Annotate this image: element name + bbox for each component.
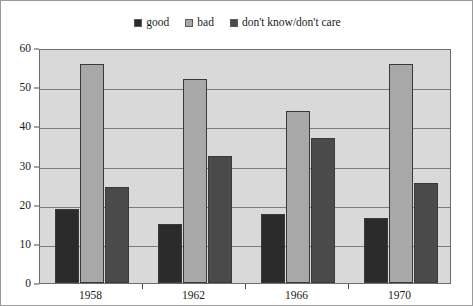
x-tick-mark xyxy=(245,284,246,289)
x-tick-label: 1958 xyxy=(79,290,102,302)
y-tick-label: 20 xyxy=(20,200,32,212)
bars-layer xyxy=(40,50,450,283)
y-tick-label: 30 xyxy=(20,161,32,173)
y-tick-label: 60 xyxy=(20,43,32,55)
bar xyxy=(286,111,310,283)
y-tick-label: 50 xyxy=(20,82,32,94)
legend-entry: good xyxy=(134,17,169,29)
y-axis: 0102030405060 xyxy=(1,49,39,284)
legend-label: good xyxy=(146,17,169,29)
x-tick-label: 1962 xyxy=(182,290,205,302)
bar xyxy=(55,209,79,283)
bar xyxy=(80,64,104,283)
x-tick-mark xyxy=(348,284,349,289)
x-axis: 1958196219661970 xyxy=(39,284,451,306)
plot-area xyxy=(39,49,451,284)
y-tick-label: 10 xyxy=(20,239,32,251)
legend-label: bad xyxy=(197,17,214,29)
legend-swatch-icon xyxy=(185,19,193,27)
bar xyxy=(311,138,335,283)
bar xyxy=(183,79,207,283)
y-tick-label: 0 xyxy=(25,278,31,290)
bar-chart-figure: goodbaddon't know/don't care 01020304050… xyxy=(0,0,473,306)
legend-entry: bad xyxy=(185,17,214,29)
legend-swatch-icon xyxy=(134,19,142,27)
bar xyxy=(158,224,182,283)
x-tick-label: 1970 xyxy=(388,290,411,302)
bar xyxy=(261,214,285,283)
x-tick-mark xyxy=(142,284,143,289)
bar xyxy=(105,187,129,283)
x-tick-label: 1966 xyxy=(285,290,308,302)
legend-entry: don't know/don't care xyxy=(230,17,341,29)
y-tick-label: 40 xyxy=(20,122,32,134)
bar xyxy=(208,156,232,283)
legend-label: don't know/don't care xyxy=(242,17,341,29)
bar xyxy=(389,64,413,283)
legend-swatch-icon xyxy=(230,19,238,27)
chart-legend: goodbaddon't know/don't care xyxy=(1,17,473,29)
bar xyxy=(414,183,438,283)
bar xyxy=(364,218,388,283)
